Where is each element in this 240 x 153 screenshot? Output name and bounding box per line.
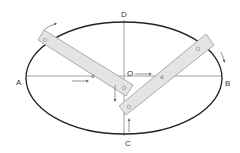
label-D: D <box>121 10 127 19</box>
left-bar-mid-mark: d <box>91 73 94 79</box>
label-B: B <box>225 79 230 88</box>
right-bar-mid-mark: d <box>160 74 163 80</box>
label-O: O <box>127 69 133 78</box>
left-trammel-bar: d <box>38 30 133 96</box>
label-A: A <box>16 78 22 87</box>
motion-arrows <box>44 23 226 133</box>
right-trammel-bar: d <box>119 34 214 115</box>
label-C: C <box>125 139 131 148</box>
trammel-diagram: d d D A B C O <box>0 0 240 153</box>
